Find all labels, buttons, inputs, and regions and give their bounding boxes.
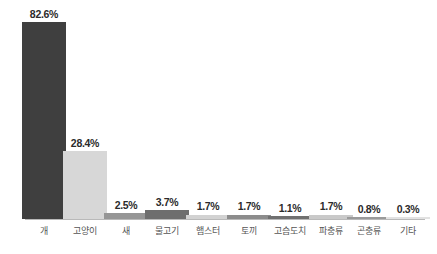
bar-slot: 0.8%	[347, 0, 391, 219]
plot-area: 82.6% 28.4% 2.5% 3.7% 1.7%	[0, 0, 437, 219]
bar-column[interactable]: 2.5%	[104, 200, 148, 219]
category-label: 토끼	[227, 224, 271, 238]
bar-column[interactable]: 1.1%	[268, 203, 312, 219]
bar-value-label: 0.3%	[397, 204, 420, 215]
bar-slot: 0.3%	[386, 0, 430, 219]
category-label: 햄스터	[186, 224, 230, 238]
bar-value-label: 82.6%	[30, 9, 58, 20]
category-label: 개	[22, 224, 66, 238]
category-label: 기타	[386, 224, 430, 238]
bar-value-label: 1.1%	[279, 203, 302, 214]
bar-value-label: 1.7%	[320, 201, 343, 212]
bar-column[interactable]: 0.8%	[347, 204, 391, 220]
category-label: 물고기	[145, 224, 189, 238]
bar-rect[interactable]	[145, 210, 189, 219]
bar-slot: 1.7%	[186, 0, 230, 219]
bar-column[interactable]: 82.6%	[22, 9, 66, 220]
bar-slot: 2.5%	[104, 0, 148, 219]
bar-rect[interactable]	[63, 151, 107, 219]
bar-value-label: 1.7%	[197, 201, 220, 212]
category-label: 새	[104, 224, 148, 238]
bar-column[interactable]: 3.7%	[145, 197, 189, 219]
x-axis-line	[25, 219, 425, 220]
bar-column[interactable]: 1.7%	[227, 201, 271, 219]
bar-chart: 82.6% 28.4% 2.5% 3.7% 1.7%	[0, 0, 437, 254]
bar-slot: 82.6%	[22, 0, 66, 219]
category-label: 곤충류	[347, 224, 391, 238]
bar-value-label: 2.5%	[115, 200, 138, 211]
category-label: 고양이	[63, 224, 107, 238]
bar-slot: 28.4%	[63, 0, 107, 219]
category-axis: 개 고양이 새 물고기 햄스터 토끼 고슴도치 파충류 곤충류 기타	[0, 224, 437, 244]
bar-rect[interactable]	[22, 22, 66, 219]
bar-slot: 1.1%	[268, 0, 312, 219]
bar-slot: 3.7%	[145, 0, 189, 219]
bar-value-label: 28.4%	[71, 138, 99, 149]
bar-value-label: 1.7%	[238, 201, 261, 212]
bar-slot: 1.7%	[227, 0, 271, 219]
bar-column[interactable]: 1.7%	[186, 201, 230, 219]
bar-column[interactable]: 28.4%	[63, 138, 107, 219]
category-label: 고슴도치	[266, 224, 314, 238]
bar-column[interactable]: 0.3%	[386, 204, 430, 220]
bar-value-label: 3.7%	[156, 197, 179, 208]
bar-value-label: 0.8%	[358, 204, 381, 215]
